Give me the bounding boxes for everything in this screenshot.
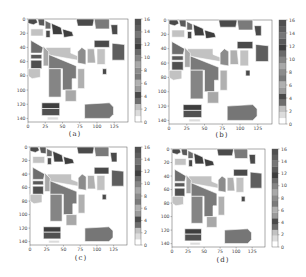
caption-d: (d)	[203, 256, 243, 264]
x-tick-label: 50	[201, 249, 207, 254]
y-tick-label: 100	[161, 214, 170, 219]
y-tick-label: 60	[164, 187, 170, 192]
colorbar-segment	[272, 195, 278, 201]
panel-d: 0255075100125020406080100120140024681012…	[0, 0, 306, 277]
colorbar-segment	[272, 184, 278, 190]
classification-map-d: 0255075100125020406080100120140024681012…	[0, 0, 306, 277]
field-region	[249, 154, 255, 164]
colorbar-segment	[272, 235, 278, 241]
colorbar-segment	[272, 189, 278, 195]
colorbar-segment	[272, 155, 278, 161]
colorbar-segment	[272, 172, 278, 178]
field-region	[185, 229, 202, 234]
field-region	[175, 159, 187, 166]
x-tick-label: 75	[217, 249, 223, 254]
colorbar-segment	[272, 212, 278, 218]
field-region	[250, 172, 262, 188]
y-tick-label: 0	[167, 147, 170, 152]
colorbar-segment	[272, 166, 278, 172]
colorbar-segment	[272, 178, 278, 184]
field-region	[175, 183, 185, 187]
colorbar-tick-label: 0	[281, 245, 284, 250]
colorbar-tick-label: 4	[281, 220, 284, 225]
field-region	[236, 177, 244, 192]
field-region	[172, 196, 184, 206]
colorbar-segment	[272, 161, 278, 167]
field-region	[175, 188, 185, 196]
field-region	[181, 149, 187, 156]
field-region	[191, 196, 203, 223]
field-region	[190, 242, 200, 245]
field-region	[217, 149, 234, 156]
field-region	[189, 160, 193, 167]
y-tick-label: 40	[164, 174, 170, 179]
x-tick-label: 0	[171, 249, 174, 254]
colorbar-tick-label: 14	[281, 159, 287, 164]
colorbar-segment	[272, 241, 278, 247]
x-tick-label: 100	[232, 249, 241, 254]
colorbar-segment	[272, 201, 278, 207]
x-tick-label: 125	[248, 249, 257, 254]
colorbar-segment	[272, 224, 278, 230]
field-region	[234, 169, 248, 176]
field-region	[185, 234, 202, 241]
x-tick-label: 25	[185, 249, 191, 254]
y-tick-label: 80	[164, 201, 170, 206]
y-tick-label: 140	[161, 241, 170, 246]
field-region	[218, 176, 226, 192]
colorbar-tick-label: 6	[281, 208, 284, 213]
field-region	[234, 149, 248, 159]
colorbar-segment	[272, 207, 278, 213]
field-region	[225, 229, 252, 244]
colorbar-tick-label: 12	[281, 171, 287, 176]
field-region	[218, 196, 224, 215]
y-tick-label: 120	[161, 228, 170, 233]
colorbar-tick-label: 16	[281, 147, 287, 152]
field-region	[241, 196, 245, 201]
y-tick-label: 20	[164, 160, 170, 165]
field-region	[227, 177, 235, 191]
colorbar-tick-label: 2	[281, 232, 284, 237]
colorbar-segment	[272, 218, 278, 224]
field-region	[207, 217, 217, 228]
colorbar-tick-label: 8	[281, 196, 284, 201]
colorbar-segment	[272, 149, 278, 155]
colorbar-segment	[272, 230, 278, 236]
colorbar-tick-label: 10	[281, 183, 287, 188]
